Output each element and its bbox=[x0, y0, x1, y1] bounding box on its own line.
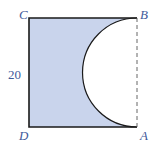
label-a: A bbox=[139, 128, 148, 143]
square-semicircle-diagram: C B D A 20 bbox=[0, 0, 166, 154]
label-d: D bbox=[18, 128, 29, 143]
label-b: B bbox=[140, 7, 148, 22]
side-length-label: 20 bbox=[8, 67, 21, 82]
label-c: C bbox=[19, 7, 28, 22]
